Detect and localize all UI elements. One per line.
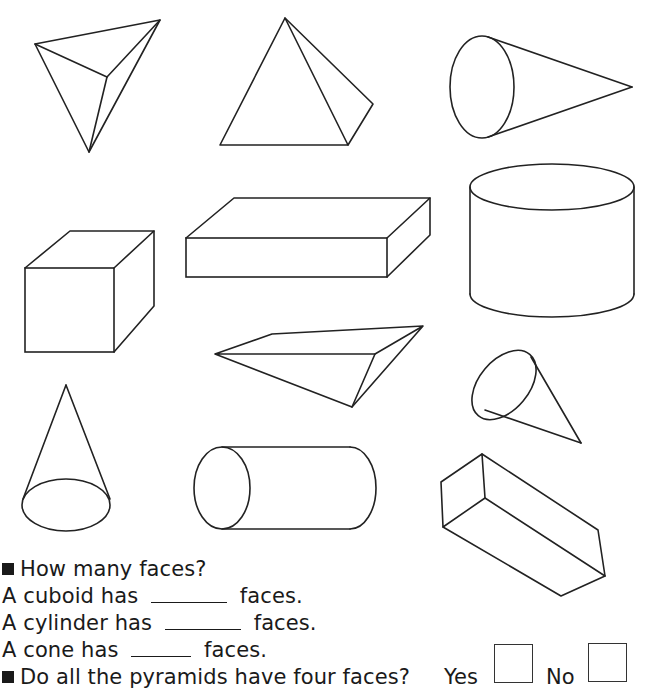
question-cylinder: A cylinder has faces. [2, 610, 317, 636]
cube-shape [25, 231, 154, 352]
yes-checkbox[interactable] [494, 644, 533, 683]
cylinder-upright-shape [470, 164, 634, 317]
yes-label: Yes [444, 664, 478, 690]
bullet-icon [2, 671, 14, 683]
cylinder-horizontal-shape [194, 447, 376, 529]
no-label: No [546, 664, 575, 690]
cuboid-flat-shape [186, 198, 430, 277]
answer-blank-cuboid[interactable] [151, 588, 227, 603]
pyramid-question: Do all the pyramids have four faces? [2, 664, 410, 690]
pyramid-horizontal-shape [215, 326, 423, 407]
bullet-icon [2, 563, 14, 575]
question-cone: A cone has faces. [2, 637, 267, 663]
square-pyramid-shape [220, 18, 373, 145]
cone-upright-shape [22, 385, 110, 531]
faces-heading: How many faces? [2, 556, 207, 582]
cone-tilted-shape [459, 338, 581, 443]
tetrahedron-shape [35, 20, 160, 152]
no-checkbox[interactable] [588, 643, 627, 682]
question-cuboid: A cuboid has faces. [2, 583, 303, 609]
cuboid-tilted-shape [441, 454, 605, 596]
answer-blank-cylinder[interactable] [165, 615, 241, 630]
cone-horizontal-shape [450, 36, 632, 138]
answer-blank-cone[interactable] [131, 642, 191, 657]
